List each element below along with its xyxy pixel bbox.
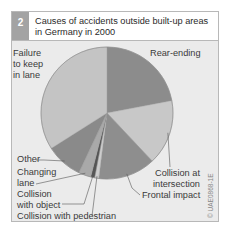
leader-object	[62, 175, 93, 204]
label-frontal-impact: Frontal impact	[142, 190, 201, 200]
label-other: Other	[17, 154, 40, 164]
label-changing-lane-2: lane	[17, 178, 34, 188]
label-rear-ending: Rear-ending	[150, 48, 201, 58]
label-failure-3: in lane	[13, 70, 40, 80]
leader-frontal	[127, 174, 140, 195]
leader-other	[36, 160, 65, 161]
label-failure-1: Failure	[13, 48, 41, 58]
label-failure-2: to keep	[13, 59, 43, 69]
label-intersection-2: intersection	[153, 179, 200, 189]
label-intersection-1: Collision at	[155, 168, 200, 178]
label-object-2: with object	[16, 200, 61, 210]
label-object-1: Collision	[17, 189, 52, 199]
label-pedestrian: Collision with pedestrian	[17, 211, 116, 221]
pie-slices	[41, 47, 173, 179]
pie-chart: Failure to keep in lane Rear-ending Coll…	[0, 0, 228, 234]
leader-intersection	[168, 133, 170, 167]
figure-credit: © UAE0868-1E	[207, 173, 214, 218]
label-changing-lane-1: Changing	[17, 167, 56, 177]
